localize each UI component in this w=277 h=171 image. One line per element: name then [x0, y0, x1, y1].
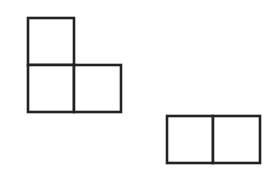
horizontal-domino — [167, 116, 260, 163]
horizontal-domino-cell-0 — [167, 116, 213, 163]
diagram-canvas — [0, 0, 277, 171]
l-shape-tromino-cell-1 — [28, 65, 74, 112]
l-shape-tromino-cell-2 — [74, 65, 121, 112]
l-shape-tromino-cell-0 — [28, 18, 74, 65]
l-shape-tromino — [28, 18, 121, 112]
horizontal-domino-cell-1 — [213, 116, 260, 163]
